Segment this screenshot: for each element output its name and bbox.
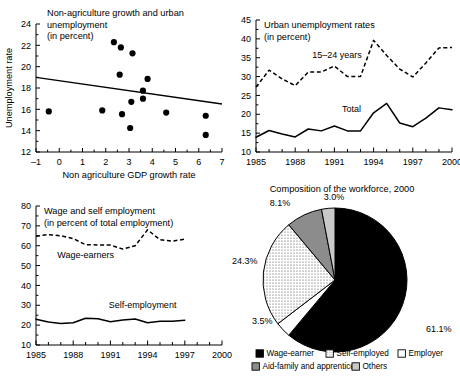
scatter-point bbox=[119, 111, 125, 117]
workforce-pie-chart-svg: Composition of the workforce, 200061.1%3… bbox=[230, 180, 460, 389]
scatter-point bbox=[117, 72, 123, 78]
series-label: Self-employment bbox=[109, 300, 177, 310]
x-tick-label: 1991 bbox=[324, 157, 344, 167]
x-tick-label: 1988 bbox=[285, 157, 305, 167]
y-tick-label: 50 bbox=[21, 261, 31, 271]
legend-label: Wage-earner bbox=[267, 349, 315, 358]
x-tick-label: 0 bbox=[57, 157, 62, 167]
x-tick-label: 7 bbox=[219, 157, 224, 167]
panel-scatter-nonag-growth: 12141618202224–101234567Non-agriculture … bbox=[0, 0, 230, 180]
x-tick-label: 1994 bbox=[364, 157, 384, 167]
chart-title-line: unemployment bbox=[47, 20, 108, 30]
y-tick-label: 10 bbox=[21, 340, 31, 350]
scatter-point bbox=[140, 96, 146, 102]
series-line bbox=[36, 318, 185, 323]
x-tick-label: 4 bbox=[150, 157, 155, 167]
y-tick-label: 25 bbox=[241, 91, 251, 101]
scatter-point bbox=[203, 132, 209, 138]
y-tick-label: 40 bbox=[21, 281, 31, 291]
legend-label: Self-employed bbox=[337, 349, 390, 358]
scatter-point bbox=[145, 76, 151, 82]
y-tick-label: 30 bbox=[241, 72, 251, 82]
pie-slice-value-label: 61.1% bbox=[426, 324, 452, 334]
pie-slice-value-label: 3.0% bbox=[324, 192, 345, 202]
y-tick-label: 40 bbox=[241, 34, 251, 44]
x-tick-label: 1991 bbox=[100, 350, 120, 360]
legend-swatch bbox=[252, 363, 259, 370]
y-tick-label: 14 bbox=[21, 126, 31, 136]
chart-title-line: (in percent of total employment) bbox=[44, 218, 173, 228]
y-tick-label: 20 bbox=[21, 320, 31, 330]
chart-title-line: Urban unemployment rates bbox=[264, 20, 375, 30]
x-tick-label: 1997 bbox=[403, 157, 423, 167]
x-tick-label: 3 bbox=[126, 157, 131, 167]
x-tick-label: 2000 bbox=[212, 350, 232, 360]
series-label: Total bbox=[342, 104, 361, 114]
y-tick-label: 60 bbox=[21, 241, 31, 251]
y-tick-label: 22 bbox=[21, 41, 31, 51]
scatter-point bbox=[163, 109, 169, 115]
chart-title-line: (in percent) bbox=[264, 32, 310, 42]
y-axis-title: Unemployment rate bbox=[4, 48, 14, 128]
x-tick-label: –1 bbox=[31, 157, 41, 167]
panel-urban-unemployment-rates: 1015202530354045198519881991199419972000… bbox=[230, 0, 460, 180]
x-tick-label: 1 bbox=[80, 157, 85, 167]
urban-unemployment-chart-svg: 1015202530354045198519881991199419972000… bbox=[230, 0, 460, 180]
x-tick-label: 1985 bbox=[26, 350, 46, 360]
y-tick-label: 16 bbox=[21, 105, 31, 115]
x-tick-label: 1988 bbox=[63, 350, 83, 360]
x-tick-label: 1997 bbox=[175, 350, 195, 360]
pie-slice-value-label: 3.5% bbox=[252, 316, 273, 326]
scatter-point bbox=[111, 39, 117, 45]
x-tick-label: 1994 bbox=[138, 350, 158, 360]
scatter-chart-svg: 12141618202224–101234567Non-agriculture … bbox=[0, 0, 230, 180]
chart-title-line: Wage and self employment bbox=[44, 206, 155, 216]
legend-label: Aid-family and apprentice bbox=[263, 362, 356, 371]
y-tick-label: 10 bbox=[241, 147, 251, 157]
x-tick-label: 2 bbox=[103, 157, 108, 167]
scatter-point bbox=[203, 113, 209, 119]
pie-slice-value-label: 8.1% bbox=[270, 198, 291, 208]
scatter-point bbox=[118, 44, 124, 50]
panel-wage-self-employment: 1020304050607080198519881991199419972000… bbox=[0, 180, 230, 389]
x-axis-title: Non agriculture GDP growth rate bbox=[62, 170, 195, 180]
y-tick-label: 70 bbox=[21, 221, 31, 231]
scatter-point bbox=[127, 125, 133, 131]
y-tick-label: 15 bbox=[241, 128, 251, 138]
scatter-point bbox=[140, 88, 146, 94]
series-line bbox=[256, 40, 452, 87]
legend-swatch bbox=[326, 350, 333, 357]
y-tick-label: 35 bbox=[241, 53, 251, 63]
y-tick-label: 30 bbox=[21, 300, 31, 310]
wage-self-employment-chart-svg: 1020304050607080198519881991199419972000… bbox=[0, 180, 230, 389]
scatter-point bbox=[129, 50, 135, 56]
series-line bbox=[36, 230, 185, 249]
series-label: 15–24 years bbox=[312, 50, 362, 60]
x-tick-label: 6 bbox=[196, 157, 201, 167]
legend-swatch bbox=[352, 363, 359, 370]
y-tick-label: 20 bbox=[241, 109, 251, 119]
legend-label: Employer bbox=[409, 349, 444, 358]
legend-swatch bbox=[398, 350, 405, 357]
chart-title-line: (in percent) bbox=[47, 31, 93, 41]
pie-slice-value-label: 24.3% bbox=[232, 256, 258, 266]
legend-label: Others bbox=[363, 362, 388, 371]
y-tick-label: 45 bbox=[241, 15, 251, 25]
legend-swatch bbox=[256, 350, 263, 357]
x-tick-label: 2000 bbox=[442, 157, 460, 167]
scatter-point bbox=[99, 107, 105, 113]
panel-workforce-composition: Composition of the workforce, 200061.1%3… bbox=[230, 180, 460, 389]
chart-title-line: Non-agriculture growth and urban bbox=[47, 8, 184, 18]
y-tick-label: 12 bbox=[21, 147, 31, 157]
scatter-point bbox=[128, 99, 134, 105]
scatter-point bbox=[46, 108, 52, 114]
series-label: Wage-earners bbox=[57, 250, 114, 260]
y-tick-label: 20 bbox=[21, 62, 31, 72]
y-tick-label: 24 bbox=[21, 19, 31, 29]
y-tick-label: 80 bbox=[21, 201, 31, 211]
x-tick-label: 1985 bbox=[246, 157, 266, 167]
y-tick-label: 18 bbox=[21, 83, 31, 93]
x-tick-label: 5 bbox=[173, 157, 178, 167]
